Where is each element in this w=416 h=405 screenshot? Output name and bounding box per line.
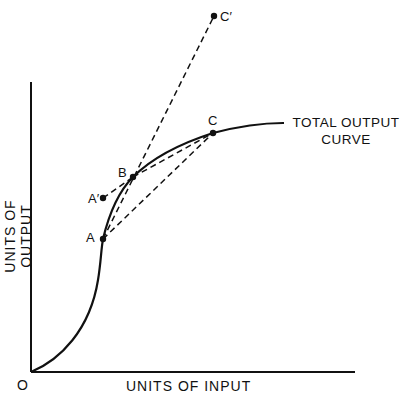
point-cprime-marker [211,13,217,19]
point-a-label: A [86,231,95,244]
curve-label-line1: TOTAL OUTPUT [288,116,404,130]
point-aprime-label: A′ [88,192,99,205]
dashed-line-aprime-b [103,177,133,198]
curve-label-line2: CURVE [288,133,404,147]
diagram-canvas: A A′ B C C′ TOTAL OUTPUT CURVE O UNITS O… [0,0,416,405]
total-output-curve [31,123,283,372]
point-a-marker [100,236,106,242]
point-cprime-label: C′ [220,10,232,23]
curve-label: TOTAL OUTPUT CURVE [288,116,404,146]
point-aprime-marker [100,195,106,201]
dashed-line-a-cprime [103,16,214,239]
origin-label: O [17,378,28,392]
point-c-marker [210,130,216,136]
x-axis-label: UNITS OF INPUT [126,379,251,393]
point-b-marker [130,174,136,180]
diagram-graphics [0,0,416,405]
point-b-label: B [118,166,127,179]
point-c-label: C [208,114,217,127]
y-axis-label: UNITS OF OUTPUT [2,166,34,306]
